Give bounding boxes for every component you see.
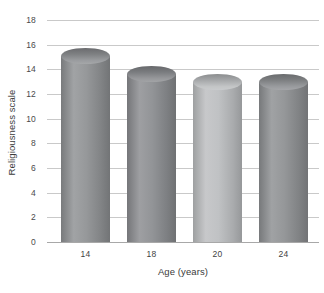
y-tick-label: 14 xyxy=(0,64,36,74)
y-tick-label: 10 xyxy=(0,114,36,124)
bar-cylinder[interactable] xyxy=(193,74,242,242)
bar-body xyxy=(61,56,110,242)
bar-cylinder[interactable] xyxy=(259,74,308,242)
x-axis-title: Age (years) xyxy=(47,266,319,277)
bars-layer xyxy=(47,20,319,242)
y-tick-label: 16 xyxy=(0,40,36,50)
x-tick-label: 24 xyxy=(259,249,308,259)
bar-cylinder[interactable] xyxy=(127,66,176,242)
y-tick-label: 4 xyxy=(0,188,36,198)
bar-body xyxy=(259,82,308,242)
x-tick-label: 18 xyxy=(127,249,176,259)
bar-cap xyxy=(193,74,242,90)
x-axis-line xyxy=(47,242,319,243)
bar-cylinder[interactable] xyxy=(61,48,110,242)
y-tick-label: 8 xyxy=(0,138,36,148)
y-tick-label: 12 xyxy=(0,89,36,99)
plot-area: 181614121086420 xyxy=(47,20,319,242)
y-tick-label: 0 xyxy=(0,237,36,247)
bar-body xyxy=(193,82,242,242)
bar-cap xyxy=(61,48,110,64)
y-tick-label: 6 xyxy=(0,163,36,173)
y-tick-label: 2 xyxy=(0,212,36,222)
bar-cap xyxy=(259,74,308,90)
bar-body xyxy=(127,74,176,242)
x-tick-label: 20 xyxy=(193,249,242,259)
religiousness-by-age-chart: Religiousness scale 181614121086420 1418… xyxy=(0,0,324,293)
x-tick-label: 14 xyxy=(61,249,110,259)
y-tick-label: 18 xyxy=(0,15,36,25)
